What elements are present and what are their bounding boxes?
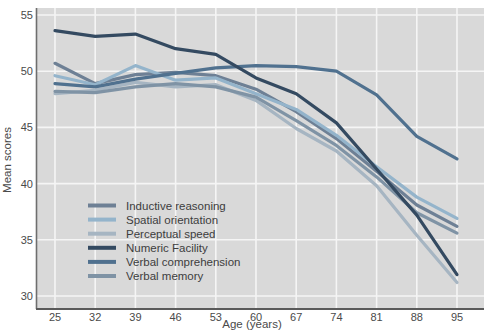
legend-label-numeric-facility: Numeric Facility [126,242,208,254]
x-tick-label: 46 [169,311,181,323]
x-tick-label: 67 [290,311,302,323]
mean-scores-by-age-line-chart: 5550454035302532394653606774818895 Induc… [0,0,484,330]
y-tick-label: 50 [21,65,33,77]
x-tick-label: 25 [49,311,61,323]
x-tick-label: 39 [129,311,141,323]
line-chart-figure: 5550454035302532394653606774818895 Induc… [0,0,484,330]
legend-label-perceptual-speed: Perceptual speed [126,228,216,240]
y-tick-label: 55 [21,9,33,21]
x-tick-label: 88 [411,311,423,323]
y-tick-label: 35 [21,234,33,246]
legend-label-inductive-reasoning: Inductive reasoning [126,200,226,212]
y-axis-title: Mean scores [1,127,13,193]
legend-label-verbal-memory: Verbal memory [126,270,204,282]
x-tick-label: 81 [370,311,382,323]
x-tick-label: 32 [89,311,101,323]
x-axis-title: Age (years) [222,318,282,330]
legend-label-verbal-comprehension: Verbal comprehension [126,256,240,268]
y-tick-label: 30 [21,290,33,302]
legend-label-spatial-orientation: Spatial orientation [126,214,218,226]
y-tick-label: 40 [21,178,33,190]
x-tick-label: 74 [330,311,342,323]
x-tick-label: 95 [451,311,463,323]
y-tick-label: 45 [21,121,33,133]
x-tick-label: 53 [210,311,222,323]
